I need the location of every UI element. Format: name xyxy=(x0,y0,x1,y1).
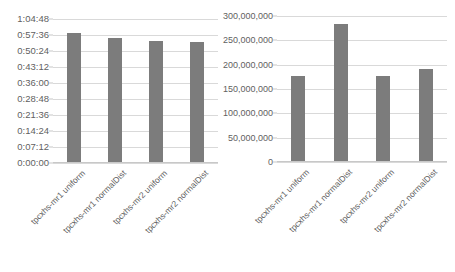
bar-slot xyxy=(277,16,320,162)
y-axis-tick-label: 0:43:12 xyxy=(17,62,49,72)
y-axis-tick-label: 0:28:48 xyxy=(17,94,49,104)
charts-row: 1:04:480:57:360:50:240:43:120:36:000:28:… xyxy=(0,0,455,272)
y-axis-tick-label: 0:07:12 xyxy=(17,142,49,152)
bar[interactable] xyxy=(334,24,348,162)
bar[interactable] xyxy=(108,38,122,163)
bar-slot xyxy=(94,19,135,163)
bar[interactable] xyxy=(291,76,305,162)
bar[interactable] xyxy=(67,33,81,163)
bar-slot xyxy=(405,16,448,162)
bar-slot xyxy=(362,16,405,162)
bar-slot xyxy=(177,19,218,163)
y-axis-tick-label: 100,000,000 xyxy=(223,108,273,118)
bar[interactable] xyxy=(419,69,433,162)
x-axis-labels-left: tpcxhs-mr1 uniformtpcxhs-mr1 normalDistt… xyxy=(53,164,218,264)
y-axis-tick-label: 0:57:36 xyxy=(17,30,49,40)
y-axis-tick-label: 300,000,000 xyxy=(223,11,273,21)
y-axis-labels-left: 1:04:480:57:360:50:240:43:120:36:000:28:… xyxy=(0,19,49,163)
y-axis-tick-label: 250,000,000 xyxy=(223,35,273,45)
bar-series-left xyxy=(53,19,218,163)
y-axis-tick-label: 50,000,000 xyxy=(228,133,273,143)
y-axis-tick-label: 0:50:24 xyxy=(17,46,49,56)
bar[interactable] xyxy=(190,42,204,163)
bar[interactable] xyxy=(149,41,163,163)
y-axis-tick-label: 0:14:24 xyxy=(17,126,49,136)
y-axis-tick-label: 1:04:48 xyxy=(17,14,49,24)
bar[interactable] xyxy=(376,76,390,162)
bar-slot xyxy=(320,16,363,162)
y-axis-labels-right: 300,000,000250,000,000200,000,000150,000… xyxy=(230,16,273,162)
plot-area-left xyxy=(53,19,218,163)
bar-slot xyxy=(53,19,94,163)
x-axis-line xyxy=(277,161,447,162)
y-axis-tick-label: 0:00:00 xyxy=(17,158,49,168)
y-axis-tick-label: 200,000,000 xyxy=(223,60,273,70)
x-axis-line xyxy=(53,162,218,163)
execution-time-chart: 1:04:480:57:360:50:240:43:120:36:000:28:… xyxy=(0,0,230,272)
bar-series-right xyxy=(277,16,447,162)
y-axis-tick-label: 0:36:00 xyxy=(17,78,49,88)
throughput-chart: 300,000,000250,000,000200,000,000150,000… xyxy=(230,0,455,272)
bar-slot xyxy=(136,19,177,163)
x-axis-labels-right: tpcxhs-mr1 uniformtpcxhs-mr1 normalDistt… xyxy=(277,163,447,263)
y-axis-tick-label: 150,000,000 xyxy=(223,84,273,94)
y-axis-tick-label: 0:21:36 xyxy=(17,110,49,120)
plot-area-right xyxy=(277,16,447,162)
